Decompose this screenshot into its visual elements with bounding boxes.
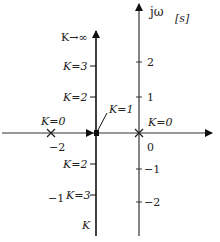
breakaway-leader-line <box>98 113 107 130</box>
pole-label-origin: K=0 <box>148 117 172 128</box>
root-locus-plot <box>0 0 220 242</box>
imag-tick-label-neg1: −1 <box>144 164 160 175</box>
locus-label-k2-upper: K=2 <box>63 92 87 103</box>
locus-label-k3-upper: K=3 <box>63 61 87 72</box>
real-axis-locus-arrow-icon <box>86 129 94 137</box>
locus-label-k2-lower: K=2 <box>63 159 87 170</box>
real-tick-label-0: 0 <box>147 142 154 153</box>
branch-real-part-label: −1 <box>48 193 64 204</box>
locus-label-k-infinity: K→∞ <box>61 32 88 43</box>
plane-label: [s] <box>175 13 189 24</box>
imag-axis-label: jω <box>150 6 164 18</box>
imag-tick-label-1: 1 <box>147 92 154 103</box>
locus-label-k3-lower: K=3 <box>66 190 90 201</box>
imag-tick-label-neg2: −2 <box>144 197 160 208</box>
pole-label-left: K=0 <box>41 116 65 127</box>
breakaway-label: K=1 <box>109 104 133 115</box>
locus-label-k-lower: K <box>82 220 90 231</box>
imaginary-axis <box>136 4 142 236</box>
imag-tick-label-2: 2 <box>147 57 154 68</box>
real-tick-label-neg2: −2 <box>49 142 65 153</box>
